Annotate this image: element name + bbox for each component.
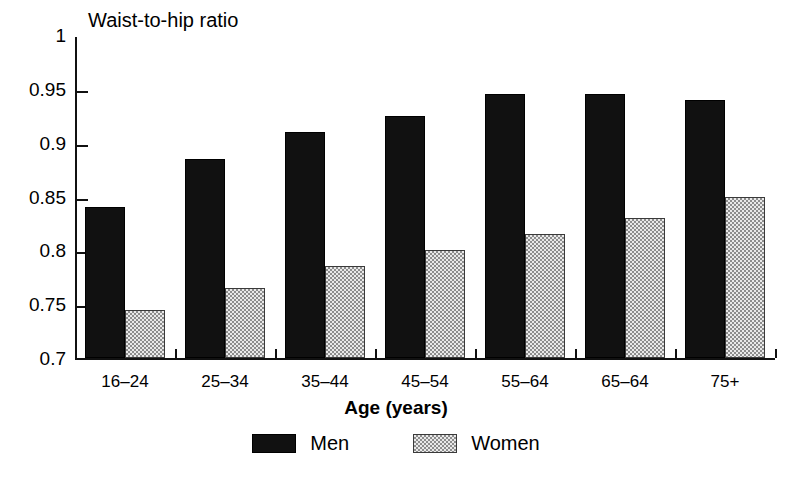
legend-item-men: Men: [252, 432, 349, 454]
x-tick-mark: [675, 349, 677, 358]
x-tick-mark: [75, 349, 77, 358]
bar-women-65–64: [625, 218, 665, 358]
y-axis-title: Waist-to-hip ratio: [88, 8, 238, 32]
y-tick-label: 0.8: [0, 241, 66, 261]
x-tick-mark: [775, 349, 777, 358]
x-category-label-65–64: 65–64: [575, 372, 675, 392]
y-tick-label: 0.7: [0, 349, 66, 369]
bar-women-75+: [725, 197, 765, 359]
y-tick-label: 0.75: [0, 295, 66, 315]
legend-label: Women: [471, 432, 540, 454]
y-tick-label: 0.9: [0, 134, 66, 154]
x-category-label-75+: 75+: [675, 372, 775, 392]
bar-women-25–34: [225, 288, 265, 358]
x-tick-mark: [175, 349, 177, 358]
bar-men-55–64: [485, 94, 525, 358]
legend-label: Men: [310, 432, 349, 454]
bar-men-45–54: [385, 116, 425, 358]
x-axis-title: Age (years): [0, 396, 792, 420]
x-tick-mark: [475, 349, 477, 358]
black-filled-swatch: [252, 434, 296, 453]
x-category-label-45–54: 45–54: [375, 372, 475, 392]
x-category-label-16–24: 16–24: [75, 372, 175, 392]
x-category-label-35–44: 35–44: [275, 372, 375, 392]
chart-figure: Waist-to-hip ratio 10.950.90.850.80.750.…: [0, 0, 792, 486]
bar-women-45–54: [425, 250, 465, 358]
y-tick-label: 0.85: [0, 188, 66, 208]
grey-dotted-swatch: [413, 434, 457, 453]
x-axis-line: [75, 358, 775, 360]
bar-women-35–44: [325, 266, 365, 358]
bar-men-25–34: [185, 159, 225, 358]
x-category-label-55–64: 55–64: [475, 372, 575, 392]
x-tick-mark: [575, 349, 577, 358]
y-tick-label: 1: [0, 26, 66, 46]
bar-men-16–24: [85, 207, 125, 358]
x-tick-mark: [375, 349, 377, 358]
legend-item-women: Women: [413, 432, 540, 454]
x-tick-mark: [275, 349, 277, 358]
bar-women-55–64: [525, 234, 565, 358]
plot-area: 10.950.90.850.80.750.7: [75, 37, 775, 360]
y-tick-mark: [77, 145, 88, 147]
bar-men-35–44: [285, 132, 325, 358]
bar-men-65–64: [585, 94, 625, 358]
y-tick-label: 0.95: [0, 80, 66, 100]
chart-legend: MenWomen: [0, 432, 792, 454]
x-category-label-25–34: 25–34: [175, 372, 275, 392]
y-tick-mark: [77, 199, 88, 201]
bar-men-75+: [685, 100, 725, 358]
y-tick-mark: [77, 91, 88, 93]
bar-women-16–24: [125, 310, 165, 358]
